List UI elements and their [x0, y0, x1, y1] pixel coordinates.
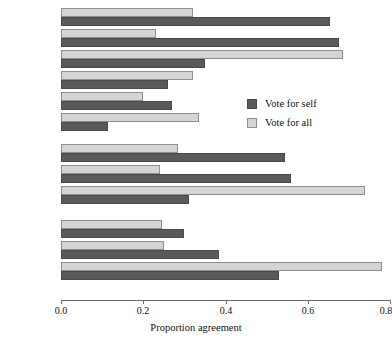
bar-pair-selfint: SelfInt: [61, 8, 390, 29]
bar-vote-for-self-dutygrp: [61, 174, 291, 183]
legend-swatch-icon-vote-for-self: [247, 99, 257, 109]
bar-vote-for-all-grpint: [61, 29, 156, 38]
bar-pair-bestall: BestAll: [61, 262, 390, 283]
legend-item-vote-for-self: Vote for self: [247, 94, 317, 113]
bar-pair-dutygrp: DutyGrp: [61, 165, 390, 186]
bar-pair-myduty: MyDuty: [61, 71, 390, 92]
bar-vote-for-self-grpduty: [61, 101, 172, 110]
bar-vote-for-all-whole: [61, 50, 343, 59]
bar-pair-allduty: AllDuty: [61, 113, 390, 134]
bar-vote-for-self-dutyall: [61, 195, 189, 204]
bar-pair-grpint: GrpInt: [61, 29, 390, 50]
bar-vote-for-self-bestall: [61, 271, 279, 280]
bar-pair-bestself: BestSelf: [61, 220, 390, 241]
x-axis-tick-label-3: 0.6: [302, 305, 315, 316]
x-axis-tick-0: [61, 300, 62, 304]
x-axis-tick-label-2: 0.4: [220, 305, 233, 316]
bar-vote-for-all-myduty: [61, 71, 193, 80]
x-axis-tick-3: [308, 300, 309, 304]
bar-vote-for-self-myduty: [61, 80, 168, 89]
bar-pair-grpduty: GrpDuty: [61, 92, 390, 113]
bar-pair-bestgrp: BestGrp: [61, 241, 390, 262]
bar-vote-for-all-allduty: [61, 113, 199, 122]
x-axis-tick-1: [143, 300, 144, 304]
bar-vote-for-all-grpduty: [61, 92, 143, 101]
bar-vote-for-self-selfint: [61, 17, 330, 26]
x-axis-tick-4: [390, 300, 391, 304]
bar-pair-whole: Whole: [61, 50, 390, 71]
bar-vote-for-self-grpint: [61, 38, 339, 47]
bar-vote-for-all-dutyall: [61, 186, 365, 195]
bar-vote-for-self-bestgrp: [61, 250, 219, 259]
plot-area: SelfInt GrpInt Whole MyDuty GrpDuty: [61, 8, 390, 300]
legend-swatch-icon-vote-for-all: [247, 118, 257, 128]
bar-vote-for-self-allduty: [61, 122, 108, 131]
bar-chart: SelfInt GrpInt Whole MyDuty GrpDuty: [0, 0, 392, 351]
bar-vote-for-all-bestgrp: [61, 241, 164, 250]
x-axis-tick-label-0: 0.0: [55, 305, 68, 316]
legend-label-vote-for-all: Vote for all: [265, 117, 312, 128]
bar-vote-for-self-whole: [61, 59, 205, 68]
legend-label-vote-for-self: Vote for self: [265, 98, 317, 109]
x-axis-tick-label-1: 0.2: [137, 305, 150, 316]
bar-pair-dutyself: DutySelf: [61, 144, 390, 165]
bar-vote-for-self-bestself: [61, 229, 184, 238]
legend-item-vote-for-all: Vote for all: [247, 113, 317, 132]
bar-vote-for-self-dutyself: [61, 153, 285, 162]
bar-vote-for-all-selfint: [61, 8, 193, 17]
bar-vote-for-all-bestall: [61, 262, 382, 271]
x-axis-title: Proportion agreement: [0, 322, 392, 333]
x-axis-tick-2: [226, 300, 227, 304]
bar-pair-dutyall: DutyAll: [61, 186, 390, 207]
x-axis-tick-label-4: 0.8: [380, 305, 392, 316]
bar-vote-for-all-dutyself: [61, 144, 178, 153]
chart-legend: Vote for self Vote for all: [247, 94, 317, 132]
bar-vote-for-all-dutygrp: [61, 165, 160, 174]
bar-vote-for-all-bestself: [61, 220, 162, 229]
